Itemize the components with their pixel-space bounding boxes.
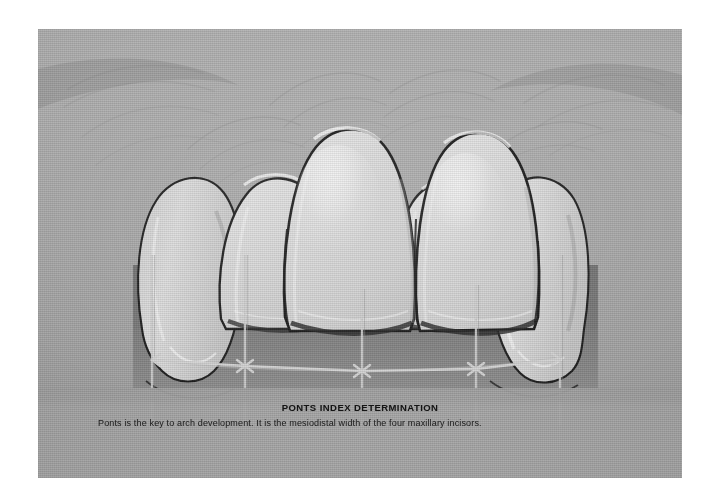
caption-band-top-blend — [38, 388, 682, 402]
tooth-illustration — [38, 29, 682, 478]
central-left-gloss — [294, 145, 382, 273]
figure-page: PONTS INDEX DETERMINATION Ponts is the k… — [0, 0, 720, 504]
photo-plate: PONTS INDEX DETERMINATION Ponts is the k… — [38, 29, 682, 478]
